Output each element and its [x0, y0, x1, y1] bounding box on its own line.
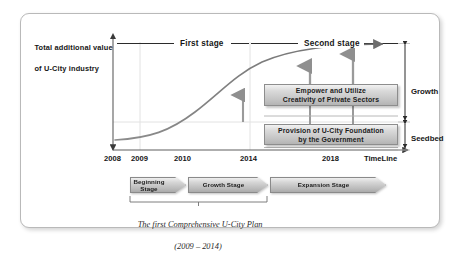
stage-arrow-beginning-line1: Beginning	[133, 178, 173, 185]
stage-arrow-growth-label: Growth Stage	[203, 181, 253, 188]
x-tick-2018: 2018	[322, 154, 339, 163]
stage-arrow-beginning-label: BeginningStage	[133, 178, 182, 193]
callout-empower-line1: Empower and Utilize	[296, 87, 366, 94]
figure-caption: The first Comprehensive U-City Plan (200…	[127, 208, 269, 255]
second-stage-label: Second stage	[300, 39, 364, 48]
y-axis-label: Total additional value of U-City industr…	[30, 32, 116, 74]
callout-provision-line1: Provision of U-City Foundation	[278, 127, 384, 134]
figure-caption-line1: The first Comprehensive U-City Plan	[138, 220, 263, 229]
callout-provision-text: Provision of U-City Foundationby the Gov…	[278, 126, 384, 144]
x-tick-2008: 2008	[104, 154, 121, 163]
x-tick-2009: 2009	[131, 154, 148, 163]
callout-empower-private-sectors: Empower and UtilizeCreativity of Private…	[264, 84, 398, 106]
x-tick-2014: 2014	[240, 154, 257, 163]
callout-empower-line2: Creativity of Private Sectors	[283, 96, 379, 103]
stage-arrow-expansion: Expansion Stage	[270, 177, 386, 193]
y-axis-label-line1: Total additional value	[34, 43, 112, 52]
plan-bracket	[130, 196, 267, 206]
callout-provision-line2: by the Government	[298, 136, 363, 143]
figure-caption-line2: (2009 – 2014)	[127, 241, 269, 252]
callout-provision-foundation: Provision of U-City Foundationby the Gov…	[264, 124, 398, 145]
stage-arrow-beginning: BeginningStage	[130, 177, 186, 193]
first-stage-label: First stage	[176, 39, 228, 48]
y-axis-label-line2: of U-City industry	[34, 64, 99, 73]
callout-empower-text: Empower and UtilizeCreativity of Private…	[283, 86, 379, 104]
growth-bracket-label: Growth	[411, 87, 438, 96]
stage-arrow-beginning-line2: Stage	[140, 185, 166, 192]
x-tick-2010: 2010	[174, 154, 191, 163]
seedbed-bracket-label: Seedbed	[411, 134, 444, 143]
x-axis-name-label: TimeLine	[364, 154, 397, 163]
stage-arrow-expansion-label: Expansion Stage	[298, 181, 358, 188]
stage-arrow-growth: Growth Stage	[188, 177, 268, 193]
